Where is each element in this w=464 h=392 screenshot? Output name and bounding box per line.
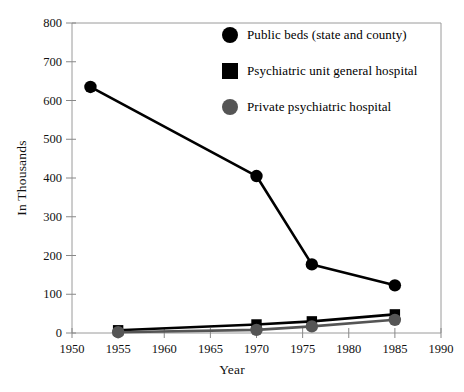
y-tick-label: 400: [20, 171, 62, 186]
chart-legend: Public beds (state and county)Psychiatri…: [222, 20, 458, 128]
y-tick-label: 600: [20, 93, 62, 108]
legend-item-label: Private psychiatric hospital: [247, 99, 391, 115]
y-tick-label: 0: [20, 326, 62, 341]
x-tick-label: 1970: [244, 342, 269, 357]
legend-item-label: Psychiatric unit general hospital: [247, 63, 417, 79]
y-tick-label: 300: [20, 209, 62, 224]
chart-figure: In Thousands Year 0100200300400500600700…: [0, 0, 464, 392]
x-axis-label: Year: [0, 362, 464, 378]
legend-item-label: Public beds (state and county): [247, 27, 407, 43]
legend-circle-marker-icon: [222, 99, 238, 115]
x-tick-label: 1960: [152, 342, 177, 357]
y-tick-label: 800: [20, 16, 62, 31]
x-tick-label: 1980: [336, 342, 361, 357]
x-tick-label: 1990: [429, 342, 454, 357]
y-tick-label: 500: [20, 132, 62, 147]
x-tick-label: 1965: [198, 342, 223, 357]
legend-circle-marker-icon: [222, 27, 238, 43]
y-tick-label: 100: [20, 287, 62, 302]
legend-item: Private psychiatric hospital: [222, 92, 458, 122]
y-tick-label: 700: [20, 54, 62, 69]
x-tick-label: 1975: [290, 342, 315, 357]
x-tick-label: 1955: [106, 342, 131, 357]
x-tick-label: 1985: [382, 342, 407, 357]
y-tick-label: 200: [20, 248, 62, 263]
legend-square-marker-icon: [222, 63, 238, 79]
legend-item: Psychiatric unit general hospital: [222, 56, 458, 86]
legend-item: Public beds (state and county): [222, 20, 458, 50]
x-tick-label: 1950: [60, 342, 85, 357]
